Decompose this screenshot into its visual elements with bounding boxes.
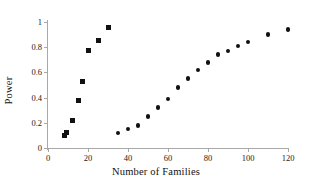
data-point-marker	[176, 85, 181, 90]
y-axis-tick-mark	[44, 123, 48, 124]
data-point-marker	[156, 105, 161, 110]
x-axis-tick-label: 20	[84, 154, 93, 163]
y-axis-tick-label: 0.2	[31, 119, 42, 128]
x-axis-tick-label: 100	[242, 154, 255, 163]
x-axis-tick-label: 80	[204, 154, 213, 163]
data-point-marker	[146, 114, 151, 119]
y-axis-tick-label: 0.6	[31, 68, 42, 77]
x-axis-tick-label: 60	[164, 154, 173, 163]
y-axis-tick-label: 1	[38, 18, 42, 27]
data-point-marker	[136, 123, 141, 128]
x-axis-tick-mark	[88, 148, 89, 152]
data-point-marker	[76, 98, 81, 103]
data-point-marker	[186, 76, 191, 81]
x-axis-tick-mark	[288, 148, 289, 152]
power-vs-number-of-families-scatter-chart: 00.20.40.60.81 020406080100120 Power Num…	[0, 0, 312, 184]
y-axis-tick-mark	[44, 47, 48, 48]
y-axis-tick-label: 0.8	[31, 43, 42, 52]
data-point-marker	[86, 48, 91, 53]
y-axis-title: Power	[3, 77, 14, 105]
data-point-marker	[216, 52, 221, 57]
data-point-marker	[64, 130, 69, 135]
x-axis-tick-mark	[248, 148, 249, 152]
y-axis-tick-label: 0	[38, 144, 42, 153]
data-point-marker	[226, 49, 231, 54]
x-axis-tick-mark	[128, 148, 129, 152]
x-axis-tick-label: 0	[46, 154, 50, 163]
plot-area: 00.20.40.60.81 020406080100120	[48, 22, 288, 148]
x-axis-tick-label: 120	[282, 154, 295, 163]
data-point-marker	[196, 68, 201, 73]
data-point-marker	[286, 27, 291, 32]
data-point-marker	[206, 60, 211, 65]
x-axis-tick-label: 40	[124, 154, 133, 163]
x-axis-tick-mark	[208, 148, 209, 152]
data-point-marker	[96, 38, 101, 43]
y-axis-tick-mark	[44, 98, 48, 99]
data-point-marker	[236, 44, 241, 49]
data-point-marker	[266, 32, 271, 37]
y-axis-tick-mark	[44, 72, 48, 73]
y-axis-tick-label: 0.4	[31, 93, 42, 102]
data-point-marker	[106, 25, 111, 30]
data-point-marker	[166, 97, 171, 102]
data-point-marker	[80, 79, 85, 84]
data-point-marker	[126, 127, 131, 132]
data-point-marker	[70, 118, 75, 123]
data-point-marker	[116, 131, 121, 136]
x-axis-tick-mark	[168, 148, 169, 152]
x-axis-title: Number of Families	[0, 166, 312, 177]
data-point-marker	[246, 40, 251, 45]
y-axis-tick-mark	[44, 22, 48, 23]
x-axis-tick-mark	[48, 148, 49, 152]
